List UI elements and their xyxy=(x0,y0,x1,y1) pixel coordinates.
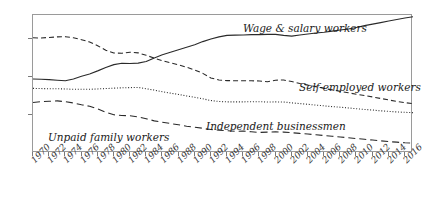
series-label: Self-employed workers xyxy=(299,81,421,93)
series-label: Unpaid family workers xyxy=(48,131,169,143)
line-chart: 20.040.060.0 197019721974197619781980198… xyxy=(0,0,425,204)
series-label: Wage & salary workers xyxy=(243,22,367,34)
series-label: Independent businessmen xyxy=(206,120,346,132)
series-line xyxy=(33,37,413,104)
